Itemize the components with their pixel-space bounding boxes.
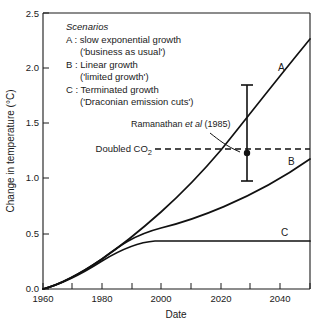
curve-series-C (43, 241, 310, 289)
curve-series-B (43, 159, 310, 289)
scenarios-legend: Scenarios A : slow exponential growth ('… (66, 21, 193, 107)
y-tick-label-5: 2.5 (26, 8, 39, 19)
chart-canvas: 0.0 0.5 1.0 1.5 2.0 2.5 1960 1980 2000 2… (0, 0, 322, 327)
x-tick-label-1980: 1980 (91, 293, 112, 304)
x-axis-title: Date (165, 309, 187, 320)
x-tick-label-2000: 2000 (150, 293, 171, 304)
y-tick-label-2: 1.0 (26, 172, 39, 183)
y-axis-ticks (43, 13, 49, 289)
ramanathan-citation-suffix: (1985) (202, 119, 231, 129)
legend-item-A-line1: A : slow exponential growth (66, 34, 181, 45)
error-bar-marker (244, 150, 250, 156)
legend-item-B-line2: ('limited growth') (80, 71, 149, 82)
legend-item-C-line2: ('Draconian emission cuts') (80, 96, 193, 107)
y-tick-label-3: 1.5 (26, 117, 39, 128)
legend-item-C-line1: C : Terminated growth (66, 84, 159, 95)
legend-item-A-line2: ('business as usual') (80, 46, 165, 57)
ramanathan-error-bar (241, 85, 253, 181)
temperature-scenarios-chart: 0.0 0.5 1.0 1.5 2.0 2.5 1960 1980 2000 2… (0, 0, 322, 327)
doubled-co2-label-text: Doubled CO (96, 143, 148, 154)
ramanathan-citation: Ramanathan et al (1985) (131, 119, 231, 129)
legend-heading: Scenarios (66, 21, 108, 32)
curve-label-A: A (278, 62, 285, 73)
y-axis-tick-labels: 0.0 0.5 1.0 1.5 2.0 2.5 (26, 8, 39, 294)
ramanathan-citation-italic: et al (185, 119, 203, 129)
x-axis-tick-labels: 1960 1980 2000 2020 2040 (32, 293, 290, 304)
ramanathan-citation-prefix: Ramanathan (131, 119, 185, 129)
y-axis-title: Change in temperature (°C) (5, 90, 16, 213)
x-axis-ticks (43, 283, 310, 289)
x-tick-label-2040: 2040 (269, 293, 290, 304)
y-tick-label-4: 2.0 (26, 62, 39, 73)
x-tick-label-2020: 2020 (210, 293, 231, 304)
doubled-co2-label: Doubled CO2 (96, 143, 152, 157)
curve-label-B: B (288, 156, 295, 167)
x-tick-label-1960: 1960 (32, 293, 53, 304)
y-tick-label-1: 0.5 (26, 228, 39, 239)
curve-label-C: C (281, 227, 288, 238)
legend-item-B-line1: B : Linear growth (66, 59, 138, 70)
